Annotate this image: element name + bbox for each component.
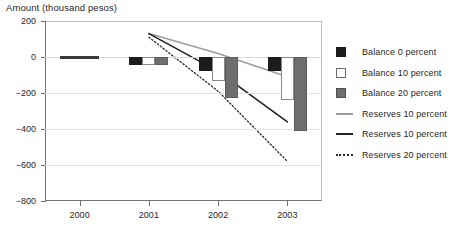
legend-item[interactable]: Balance 10 percent <box>335 63 459 84</box>
bar <box>268 57 281 71</box>
x-axis-tick-mark <box>80 201 81 206</box>
x-axis-tick-mark <box>218 201 219 206</box>
legend-item[interactable]: Reserves 20 percent <box>335 145 459 166</box>
bar <box>281 57 294 100</box>
x-axis-tick-mark <box>287 201 288 206</box>
bar <box>60 56 73 59</box>
x-axis-tick-label: 2002 <box>208 210 228 220</box>
legend-item-label: Reserves 20 percent <box>362 150 447 160</box>
gridline <box>45 165 322 166</box>
x-axis-tick-mark <box>149 201 150 206</box>
legend-key-line-black-dotted-icon <box>335 149 357 161</box>
x-axis-tick-label: 2000 <box>70 210 90 220</box>
y-axis-tick-label: −800 <box>0 196 36 206</box>
legend-item-label: Reserves 10 percent <box>362 109 447 119</box>
bar <box>86 56 99 59</box>
x-axis-tick-label: 2003 <box>277 210 297 220</box>
legend-item-label: Balance 10 percent <box>362 68 441 78</box>
y-axis-tick-label: −200 <box>0 88 36 98</box>
y-axis-tick-label: −600 <box>0 160 36 170</box>
y-axis-tick-label: 200 <box>0 16 36 26</box>
series-line <box>149 37 288 161</box>
legend-item[interactable]: Reserves 10 percent <box>335 124 459 145</box>
plot-area <box>45 21 322 201</box>
legend-item[interactable]: Balance 20 percent <box>335 83 459 104</box>
y-axis-title: Amount (thousand pesos) <box>6 2 117 13</box>
bar <box>294 57 307 131</box>
legend-item-label: Reserves 10 percent <box>362 129 447 139</box>
y-axis-tick-mark <box>41 201 46 202</box>
bar <box>142 57 155 65</box>
series-lines-layer <box>45 21 322 201</box>
chart-figure: Amount (thousand pesos) 2000−200−400−600… <box>0 0 461 238</box>
bar <box>225 57 238 98</box>
y-axis-tick-mark <box>41 21 46 22</box>
y-axis-tick-label: −400 <box>0 124 36 134</box>
legend-item[interactable]: Balance 0 percent <box>335 42 459 63</box>
legend-item[interactable]: Reserves 10 percent <box>335 104 459 125</box>
legend-key-swatch-gray-icon <box>335 87 357 99</box>
legend-item-label: Balance 0 percent <box>362 47 436 57</box>
bar <box>212 57 225 81</box>
bar <box>155 57 168 65</box>
chart-legend: Balance 0 percentBalance 10 percentBalan… <box>335 42 459 165</box>
legend-item-label: Balance 20 percent <box>362 88 441 98</box>
x-axis-tick-label: 2001 <box>139 210 159 220</box>
legend-key-line-gray-solid-icon <box>335 108 357 120</box>
legend-key-line-black-solid-icon <box>335 128 357 140</box>
gridline <box>45 129 322 130</box>
legend-key-swatch-white-icon <box>335 67 357 79</box>
y-axis-tick-label: 0 <box>0 52 36 62</box>
legend-key-swatch-black-icon <box>335 46 357 58</box>
bar <box>73 56 86 59</box>
bar <box>129 57 142 65</box>
bar <box>199 57 212 71</box>
